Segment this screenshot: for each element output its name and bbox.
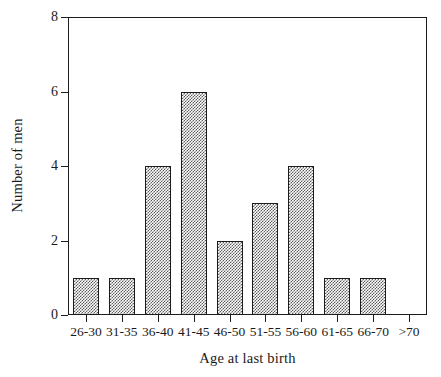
bar-46-50	[217, 241, 243, 316]
x-tick-mark-51-55	[265, 315, 266, 322]
x-tick-mark->70	[409, 315, 410, 322]
bar-41-45	[181, 92, 207, 316]
bar-51-55	[252, 203, 278, 315]
x-tick-mark-66-70	[373, 315, 374, 322]
bar-31-35	[109, 278, 135, 315]
y-tick-label-8: 8	[36, 10, 58, 24]
y-tick-mark-6	[61, 92, 68, 93]
bar-36-40	[145, 166, 171, 315]
y-tick-label-0: 0	[36, 308, 58, 322]
y-tick-mark-2	[61, 241, 68, 242]
y-tick-mark-0	[61, 315, 68, 316]
y-tick-label-4: 4	[36, 159, 58, 173]
x-tick-mark-31-35	[122, 315, 123, 322]
y-axis-title: Number of men	[0, 0, 34, 330]
bars-container	[68, 17, 427, 315]
bar-66-70	[360, 278, 386, 315]
x-tick-mark-56-60	[301, 315, 302, 322]
x-tick-mark-46-50	[230, 315, 231, 322]
y-tick-mark-4	[61, 166, 68, 167]
bar-56-60	[288, 166, 314, 315]
bar-61-65	[324, 278, 350, 315]
y-tick-mark-8	[61, 17, 68, 18]
x-tick-mark-36-40	[158, 315, 159, 322]
x-tick-mark-41-45	[194, 315, 195, 322]
y-tick-label-6: 6	[36, 85, 58, 99]
bar-chart-figure: Number of men 02468 26-3031-3536-4041-45…	[0, 0, 441, 377]
x-tick-label->70: >70	[383, 325, 435, 340]
y-axis-title-text: Number of men	[9, 118, 26, 212]
bar-26-30	[73, 278, 99, 315]
y-tick-label-2: 2	[36, 234, 58, 248]
x-axis-title: Age at last birth	[68, 350, 427, 367]
x-tick-mark-61-65	[337, 315, 338, 322]
x-tick-mark-26-30	[86, 315, 87, 322]
